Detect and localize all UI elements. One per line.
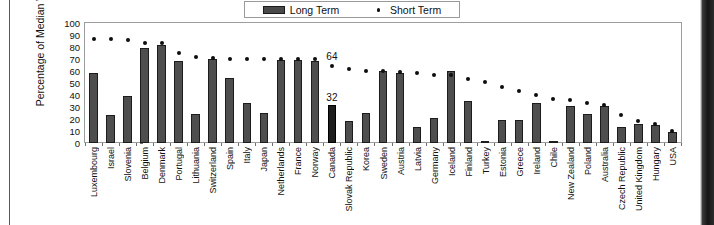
x-axis-label: Austria [396, 147, 406, 175]
data-point-short-term [500, 85, 504, 89]
bar-group [515, 23, 524, 143]
x-tick-mark [494, 143, 495, 146]
data-point-short-term [245, 57, 249, 61]
bar-group [566, 23, 575, 143]
x-axis-label: New Zealand [566, 147, 576, 200]
bar-long-term [260, 113, 269, 143]
x-tick-mark [579, 143, 580, 146]
chart-legend: Long Term Short Term [244, 1, 460, 18]
bar-long-term [430, 118, 439, 143]
x-axis-label: Sweden [379, 147, 389, 180]
bar-long-term [617, 127, 626, 143]
bar-group [174, 23, 183, 143]
data-point-short-term [585, 101, 589, 105]
bar-long-term [345, 121, 354, 143]
data-point-short-term [109, 37, 113, 41]
x-axis-label: Japan [259, 147, 269, 172]
x-axis-label: Turkey [481, 147, 491, 174]
x-tick-mark [562, 143, 563, 146]
x-tick-mark [153, 143, 154, 146]
y-tick-label: 60 [69, 66, 80, 77]
x-tick-mark [85, 143, 86, 146]
data-point-short-term [415, 71, 419, 75]
x-axis-label: Switzerland [208, 147, 218, 194]
x-axis-label: Lithuania [191, 147, 201, 184]
data-point-short-term [568, 98, 572, 102]
data-point-short-term [211, 56, 215, 60]
bar-group [243, 23, 252, 143]
x-axis-label: Poland [583, 147, 593, 175]
data-point-short-term [126, 38, 130, 42]
x-tick-mark [409, 143, 410, 146]
x-tick-mark [613, 143, 614, 146]
x-tick-mark [528, 143, 529, 146]
x-axis-label: Luxembourg [89, 147, 99, 197]
y-tick-label: 80 [69, 42, 80, 53]
x-axis-label: France [293, 147, 303, 175]
bar-group [123, 23, 132, 143]
bar-group [668, 23, 677, 143]
bar-long-term [668, 132, 677, 143]
x-tick-mark [238, 143, 239, 146]
x-axis-label: Belgium [140, 147, 150, 180]
x-axis-label: Czech Republic [617, 147, 627, 210]
bar-long-term [225, 78, 234, 143]
y-tick-label: 40 [69, 90, 80, 101]
bar-group [447, 23, 456, 143]
bar-group [311, 23, 320, 143]
bar-group [157, 23, 166, 143]
data-point-short-term [432, 73, 436, 77]
data-label-short-term: 64 [326, 51, 337, 62]
legend-item-long-term: Long Term [263, 4, 339, 16]
bar-group [583, 23, 592, 143]
bar-group [379, 23, 388, 143]
data-label-long-term: 32 [326, 92, 337, 103]
x-axis-label: Korea [361, 147, 371, 171]
bar-group [396, 23, 405, 143]
bar-long-term [362, 113, 371, 143]
x-tick-mark [255, 143, 256, 146]
data-point-short-term [347, 67, 351, 71]
y-axis-tick-labels: 1009080706050403020100 [58, 16, 80, 149]
x-axis-label: Australia [600, 147, 610, 182]
bar-group: 6432 [328, 23, 337, 143]
y-tick-label: 90 [69, 30, 80, 41]
bar-long-term [277, 60, 286, 143]
chart-page: Long Term Short Term Percentage of Media… [0, 0, 714, 225]
data-point-short-term [143, 41, 147, 45]
data-point-short-term [466, 77, 470, 81]
data-point-short-term [296, 57, 300, 61]
bar-long-term [243, 103, 252, 143]
x-tick-mark [136, 143, 137, 146]
x-tick-mark [460, 143, 461, 146]
bar-group [140, 23, 149, 143]
y-tick-label: 0 [75, 138, 80, 149]
bar-group [481, 23, 490, 143]
x-axis-label: Estonia [498, 147, 508, 177]
y-tick-label: 70 [69, 54, 80, 65]
x-axis-label: Denmark [157, 147, 167, 184]
data-point-short-term [177, 51, 181, 55]
y-tick-label: 20 [69, 114, 80, 125]
x-axis-label: Greece [515, 147, 525, 177]
bar-long-term [651, 125, 660, 143]
data-point-short-term [449, 73, 453, 77]
bar-group [225, 23, 234, 143]
x-tick-mark [374, 143, 375, 146]
x-tick-mark [647, 143, 648, 146]
x-tick-mark [392, 143, 393, 146]
x-tick-mark [289, 143, 290, 146]
bar-long-term [311, 61, 320, 143]
legend-item-short-term: Short Term [375, 4, 441, 16]
bar-long-term [379, 71, 388, 143]
data-point-short-term [534, 93, 538, 97]
x-axis-label: Hungary [651, 147, 661, 181]
bar-long-term [174, 61, 183, 143]
x-tick-mark [596, 143, 597, 146]
x-tick-mark [221, 143, 222, 146]
bar-long-term [583, 114, 592, 143]
x-axis-label: Iceland [447, 147, 457, 176]
x-axis-label: Norway [310, 147, 320, 178]
data-point-short-term [313, 57, 317, 61]
data-point-short-term [194, 55, 198, 59]
